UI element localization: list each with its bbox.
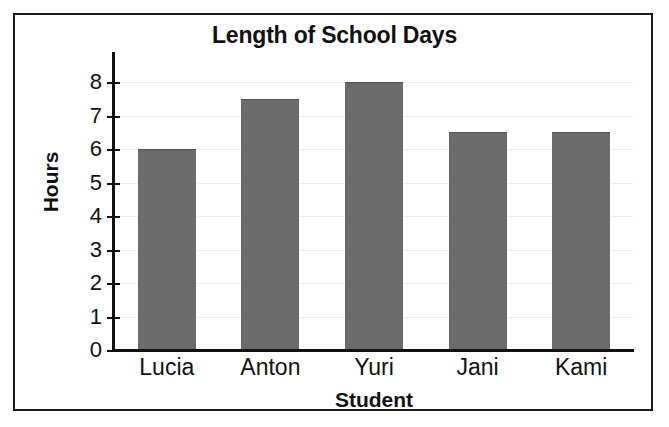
y-axis-tick (107, 317, 120, 319)
chart-title: Length of School Days (0, 22, 669, 49)
y-axis-tick (107, 149, 120, 151)
y-axis-tick-label: 6 (76, 138, 102, 160)
bar (345, 82, 403, 350)
y-axis-tick-label: 2 (76, 272, 102, 294)
y-axis-tick (107, 183, 120, 185)
bar (552, 132, 610, 350)
x-axis-label: Anton (219, 356, 323, 379)
y-axis-tick (107, 82, 120, 84)
y-axis-tick-label: 7 (76, 105, 102, 127)
x-axis-label: Yuri (322, 356, 426, 379)
y-axis-tick-label: 8 (76, 71, 102, 93)
y-axis-line (112, 52, 115, 352)
y-axis-tick-label: 0 (76, 339, 102, 361)
y-axis-tick (107, 283, 120, 285)
y-axis-title: Hours (39, 122, 63, 242)
y-axis-tick (107, 250, 120, 252)
y-axis-tick-label: 4 (76, 205, 102, 227)
x-axis-label: Lucia (115, 356, 219, 379)
bar-series (115, 52, 633, 350)
x-axis-label: Jani (426, 356, 530, 379)
y-axis-tick-label: 3 (76, 239, 102, 261)
plot-area (115, 52, 633, 350)
y-axis-tick (107, 350, 120, 352)
chart-page: Length of School Days Hours Student 0123… (0, 0, 669, 427)
y-axis-tick (107, 116, 120, 118)
y-axis-tick (107, 216, 120, 218)
x-axis-label: Kami (529, 356, 633, 379)
bar (138, 149, 196, 350)
y-axis-tick-label: 5 (76, 172, 102, 194)
bar (241, 99, 299, 350)
x-axis-title: Student (115, 388, 633, 412)
x-axis-line (113, 349, 634, 352)
bar (449, 132, 507, 350)
y-axis-tick-label: 1 (76, 306, 102, 328)
